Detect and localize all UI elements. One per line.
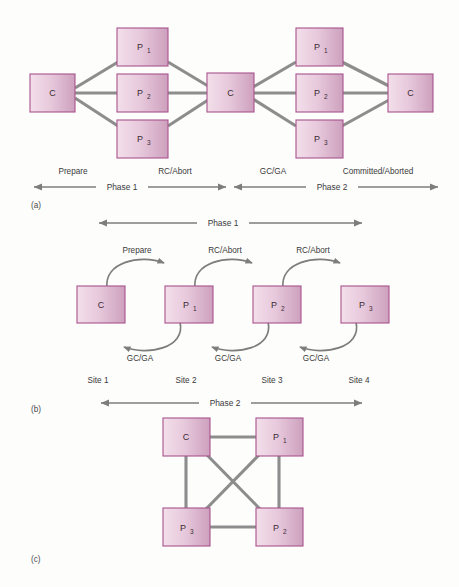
- panel-b-node-p3-label: P: [359, 300, 365, 310]
- panel-b-node-p3[interactable]: P 3: [341, 286, 389, 323]
- node-p1-right-label: P: [314, 42, 320, 52]
- node-p1-left-label: P: [137, 42, 143, 52]
- panel-b-node-p2[interactable]: P 2: [253, 286, 301, 323]
- panel-c-node-p3[interactable]: P 3: [163, 508, 210, 546]
- part-label-b: (b): [31, 405, 41, 414]
- panel-c-node-p1[interactable]: P 1: [256, 418, 303, 456]
- node-c-left[interactable]: C: [30, 74, 75, 112]
- panel-b-bottom-label-2: GC/GA: [303, 354, 330, 363]
- node-p3-right[interactable]: P 3: [296, 120, 343, 158]
- panel-b-node-p1[interactable]: P 1: [165, 286, 213, 323]
- node-p3-right-label: P: [314, 134, 320, 144]
- panel-b-forward-arcs: [107, 259, 340, 288]
- panel-c-node-p3-label: P: [180, 523, 186, 533]
- panel-a-phase2-axis: Phase 2: [234, 182, 438, 192]
- panel-a: C P 1 P 2 P 3 C P 1 P 2: [30, 28, 438, 210]
- node-p2-right-sub: 2: [324, 93, 328, 100]
- diagram-canvas: C P 1 P 2 P 3 C P 1 P 2: [0, 0, 459, 587]
- node-p1-left[interactable]: P 1: [117, 28, 168, 66]
- label-rc-abort: RC/Abort: [158, 167, 192, 176]
- node-p2-left-sub: 2: [147, 93, 151, 100]
- panel-b-phase1-axis: Phase 1: [99, 218, 362, 228]
- node-p3-left-label: P: [137, 134, 143, 144]
- panel-a-phase1-label: Phase 1: [107, 182, 138, 192]
- panel-b-top-label-1: RC/Abort: [208, 246, 242, 255]
- panel-b-node-p3-sub: 3: [369, 305, 373, 312]
- label-committed-aborted: Committed/Aborted: [343, 167, 414, 176]
- figure-container: C P 1 P 2 P 3 C P 1 P 2: [0, 0, 459, 587]
- panel-c-node-p1-label: P: [273, 432, 279, 442]
- panel-a-mid-links: [168, 62, 208, 126]
- panel-b-site-1: Site 2: [176, 376, 197, 385]
- panel-b-node-p1-label: P: [183, 300, 189, 310]
- node-p3-left[interactable]: P 3: [117, 120, 168, 158]
- panel-b-node-c[interactable]: C: [77, 286, 125, 323]
- label-gc-ga: GC/GA: [260, 167, 287, 176]
- panel-b-site-3: Site 4: [349, 376, 370, 385]
- node-p1-right-sub: 1: [324, 47, 328, 54]
- panel-b-bottom-label-0: GC/GA: [127, 354, 154, 363]
- part-label-c: (c): [31, 555, 41, 564]
- panel-b-node-c-label: C: [98, 300, 105, 310]
- panel-b-node-p2-label: P: [271, 300, 277, 310]
- panel-a-phase2-label: Phase 2: [317, 182, 348, 192]
- panel-c-node-p1-sub: 1: [283, 437, 287, 444]
- panel-b-bottom-label-1: GC/GA: [215, 354, 242, 363]
- node-p2-left-label: P: [137, 88, 143, 98]
- node-p1-left-sub: 1: [147, 47, 151, 54]
- panel-b-backward-arcs: [124, 322, 357, 351]
- panel-c-node-p3-sub: 3: [190, 528, 194, 535]
- panel-a-far-right-links: [342, 62, 389, 126]
- panel-b-site-2: Site 3: [262, 376, 283, 385]
- node-c-mid[interactable]: C: [207, 73, 254, 112]
- panel-c-node-p2[interactable]: P 2: [256, 508, 303, 546]
- panel-b-node-p2-sub: 2: [281, 305, 285, 312]
- panel-b-node-p1-sub: 1: [193, 305, 197, 312]
- node-p3-right-sub: 3: [324, 139, 328, 146]
- panel-b-top-label-0: Prepare: [122, 246, 152, 255]
- node-c-mid-label: C: [227, 88, 234, 98]
- panel-b-phase2-label: Phase 2: [210, 398, 241, 408]
- panel-c-node-c-label: C: [183, 432, 190, 442]
- panel-a-left-links: [75, 62, 118, 126]
- part-label-a: (a): [31, 201, 41, 210]
- panel-c-node-p2-label: P: [273, 523, 279, 533]
- panel-a-phase1-axis: Phase 1: [34, 182, 226, 192]
- panel-b-phase2-axis: Phase 2: [101, 398, 362, 408]
- node-c-right[interactable]: C: [388, 74, 433, 112]
- node-p3-left-sub: 3: [147, 139, 151, 146]
- node-c-left-label: C: [49, 88, 56, 98]
- label-prepare: Prepare: [58, 167, 88, 176]
- panel-c-node-c[interactable]: C: [163, 418, 210, 456]
- panel-c-node-p2-sub: 2: [283, 528, 287, 535]
- panel-b-phase1-label: Phase 1: [208, 218, 239, 228]
- panel-b: Phase 1 Prepare RC/Abort RC/Abort GC/GA …: [31, 218, 389, 414]
- panel-b-top-label-2: RC/Abort: [296, 246, 330, 255]
- panel-a-right-links: [253, 62, 296, 126]
- panel-c: C P 1 P 3 P 2 (c): [31, 418, 303, 564]
- node-p2-left[interactable]: P 2: [117, 74, 168, 112]
- panel-b-site-0: Site 1: [88, 376, 109, 385]
- node-c-right-label: C: [407, 88, 414, 98]
- node-p1-right[interactable]: P 1: [296, 28, 343, 66]
- node-p2-right-label: P: [314, 88, 320, 98]
- node-p2-right[interactable]: P 2: [296, 74, 343, 112]
